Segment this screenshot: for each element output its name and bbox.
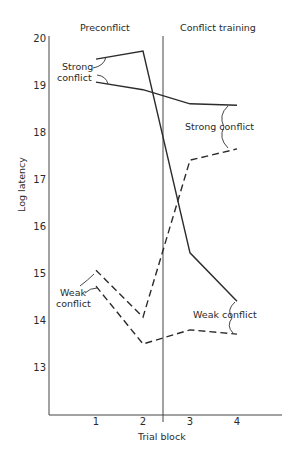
x-tick-labels: 1234 — [93, 416, 240, 427]
bracket-weak-lower — [85, 288, 97, 293]
annotation-weak-left-2: conflict — [56, 298, 91, 309]
x-tick-label: 4 — [234, 416, 240, 427]
x-tick-label: 1 — [93, 416, 99, 427]
y-tick-label: 20 — [33, 33, 46, 44]
phase-label-preconflict: Preconflict — [80, 22, 130, 33]
annotation-strong-left-1: Strong — [62, 61, 93, 72]
annotation-strong-right: Strong conflict — [185, 121, 254, 132]
series-line-3 — [96, 149, 237, 317]
y-axis-title: Log latency — [16, 157, 27, 212]
phase-label-conflict-training: Conflict training — [180, 22, 256, 33]
series-line-2 — [96, 82, 237, 105]
y-tick-label: 15 — [33, 268, 46, 279]
x-axis-title: Trial block — [137, 431, 186, 442]
series-lines — [96, 51, 237, 344]
annotation-weak-left-1: Weak — [60, 287, 87, 298]
line-chart: Preconflict Conflict training 1314151617… — [0, 0, 295, 458]
series-line-1 — [96, 51, 237, 301]
bracket-weak-upper — [80, 274, 94, 286]
y-tick-labels: 1314151617181920 — [33, 33, 46, 373]
y-tick-label: 18 — [33, 127, 46, 138]
x-tick-label: 2 — [140, 416, 146, 427]
y-tick-label: 16 — [33, 221, 46, 232]
annotation-strong-left-2: conflict — [57, 72, 92, 83]
x-tick-label: 3 — [187, 416, 193, 427]
y-tick-label: 17 — [33, 174, 46, 185]
y-tick-label: 13 — [33, 362, 46, 373]
annotation-weak-right: Weak conflict — [193, 309, 257, 320]
y-tick-label: 19 — [33, 80, 46, 91]
y-tick-label: 14 — [33, 315, 46, 326]
